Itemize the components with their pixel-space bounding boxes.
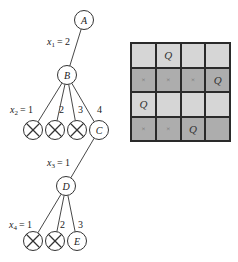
node-label: A [80,15,88,26]
edge-label-x1: x1= 2 [46,36,70,49]
pruned-node-icon [46,232,65,251]
board-cell: × [131,117,156,142]
node-label: E [73,236,80,247]
edge-A-B [70,29,81,66]
attacked-mark: × [141,125,145,133]
pruned-node-icon [68,121,87,140]
edge-label-d2: 2 [60,219,65,230]
edge-label-x3: x3= 1 [46,157,70,170]
tree-node-C: C [90,121,109,140]
board-cell [156,92,181,117]
edge-B-C [72,83,94,122]
board-cell [181,43,206,68]
edge-D-E [68,195,75,231]
pruned-node-icon [24,121,43,140]
edge-label-d3: 3 [78,219,83,230]
board-cell [205,92,230,117]
pruned-node-icon [46,121,65,140]
edge-B-B3 [69,84,76,120]
tree-node-D: D [57,177,76,196]
attacked-mark: × [191,76,195,84]
attacked-mark: × [166,76,170,84]
board-cell: × [156,68,181,93]
queen-mark: Q [139,98,147,110]
edge-label-b2: 2 [59,104,64,115]
board-cell [181,92,206,117]
attacked-mark: × [166,125,170,133]
edge-label-b3: 3 [78,104,83,115]
queen-mark: Q [164,49,172,61]
edge-C-D [71,138,94,178]
queen-mark: Q [214,74,222,86]
four-queens-board: Q×××QQ××Q [130,42,231,142]
tree-node-E: E [68,232,87,251]
board-cell: Q [205,68,230,93]
board-cell: × [181,68,206,93]
edge-label-x2: x2= 1 [9,104,33,117]
tree-node-A: A [75,11,94,30]
board-cell [205,117,230,142]
board-cell: Q [156,43,181,68]
board-cell [205,43,230,68]
attacked-mark: × [141,76,145,84]
node-label: D [61,181,70,192]
tree-node-B: B [58,66,77,85]
board-cell [131,43,156,68]
node-label: B [64,70,70,81]
pruned-node-icon [24,232,43,251]
queen-mark: Q [189,123,197,135]
board-cell: Q [131,92,156,117]
board-cell: Q [181,117,206,142]
node-label: C [96,125,103,136]
board-cell: × [131,68,156,93]
edge-label-x4: x4= 1 [8,219,32,232]
board-cell: × [156,117,181,142]
edge-label-b4: 4 [97,104,102,115]
